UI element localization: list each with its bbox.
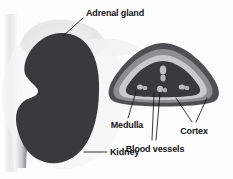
label-cortex: Cortex <box>180 126 208 136</box>
blood-vessel-left-2 <box>143 86 148 90</box>
blood-vessel-center-2 <box>163 87 167 92</box>
blood-vessel-upper <box>160 75 165 82</box>
kidney-anatomy-figure: Adrenal gland Kidney Medulla Blood vesse… <box>0 0 233 179</box>
label-adrenal-gland: Adrenal gland <box>86 8 144 18</box>
label-blood-vessels: Blood vessels <box>126 144 185 154</box>
blood-vessel-apex <box>160 65 166 74</box>
diagram-canvas: Adrenal gland Kidney Medulla Blood vesse… <box>0 0 233 179</box>
blood-vessel-right-2 <box>185 86 190 90</box>
blood-vessel-left <box>137 84 143 89</box>
label-medulla: Medulla <box>111 120 145 130</box>
blood-vessel-center <box>157 86 163 92</box>
blood-vessel-right <box>179 84 185 89</box>
